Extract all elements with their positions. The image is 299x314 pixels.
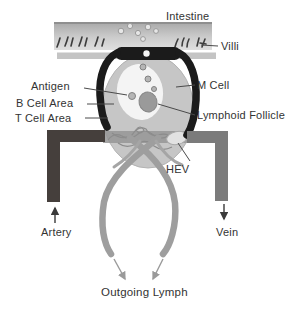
t-cell-area-label: T Cell Area: [15, 112, 71, 124]
vein-vessel: [187, 131, 228, 201]
vein-label: Vein: [216, 226, 238, 238]
lymphoid-follicle-label: Lymphoid Follicle: [197, 109, 285, 121]
lymph-flow-arrow-left: [114, 259, 125, 279]
outgoing-lymph-label: Outgoing Lymph: [101, 286, 188, 298]
artery-vessel: [47, 130, 105, 202]
antigen-label: Antigen: [31, 80, 70, 92]
lymph-flow-arrow-right: [153, 259, 163, 279]
diagram-canvas: Intestine Villi Antigen B Cell Area T Ce…: [0, 0, 299, 314]
villi-label: Villi: [221, 40, 239, 52]
b-cell-area-label: B Cell Area: [16, 97, 73, 109]
intestine-label: Intestine: [166, 10, 209, 22]
diagram-artwork: [0, 0, 299, 314]
hev-label: HEV: [166, 163, 189, 175]
antigen-dot-labeled: [129, 93, 136, 100]
artery-label: Artery: [41, 226, 72, 238]
m-cell-label: M Cell: [197, 79, 229, 91]
m-cell-pore: [143, 50, 149, 56]
